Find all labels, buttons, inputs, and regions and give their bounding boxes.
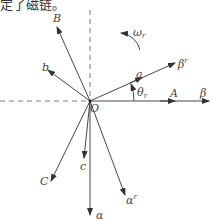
label-theta-r: θr	[137, 86, 148, 100]
b-axis	[48, 70, 90, 101]
label-a: a	[136, 68, 143, 81]
label-c: c	[80, 160, 86, 173]
vector-diagram: O B b a βr A β θr ωr C c αr α	[0, 0, 215, 221]
label-omega-r: ωr	[133, 26, 146, 40]
label-origin: O	[90, 102, 99, 115]
label-alpha-r: αr	[126, 193, 137, 207]
B-axis	[57, 27, 90, 101]
theta-r-arc	[131, 84, 134, 101]
label-b: b	[42, 61, 49, 74]
label-B: B	[52, 12, 61, 25]
label-A: A	[169, 87, 178, 100]
label-C: C	[40, 175, 49, 188]
alpha-r-axis	[90, 101, 125, 195]
label-alpha: α	[96, 209, 104, 221]
label-beta-r: βr	[177, 57, 188, 71]
label-beta: β	[199, 87, 206, 100]
